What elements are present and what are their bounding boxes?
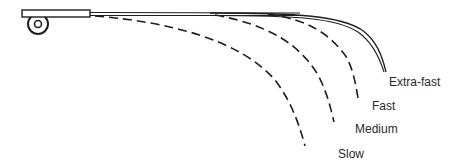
curve-medium xyxy=(215,15,334,122)
label-medium: Medium xyxy=(355,122,398,136)
curve-fast xyxy=(268,14,358,98)
curve-slow xyxy=(95,16,305,146)
label-slow: Slow xyxy=(338,147,364,161)
rod-action-diagram: Extra-fast Fast Medium Slow xyxy=(0,0,458,164)
curve-extra-fast xyxy=(210,13,386,72)
rod-blank xyxy=(90,13,300,14)
label-fast: Fast xyxy=(372,99,396,113)
label-extra-fast: Extra-fast xyxy=(389,75,441,89)
rod-handle xyxy=(22,10,90,17)
